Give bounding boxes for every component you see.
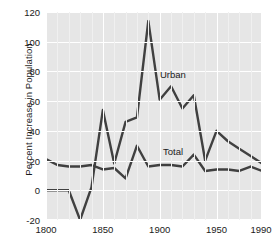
x-tick-label: 1990	[250, 224, 271, 235]
x-tick-label: 1950	[206, 224, 227, 235]
x-axis-tick-labels: 1800 1850 1900 1950 1990	[0, 0, 273, 244]
x-tick-label: 1900	[149, 224, 170, 235]
x-tick-label: 1850	[92, 224, 113, 235]
x-tick-label: 1800	[35, 224, 56, 235]
chart-figure: Percent Increase in Population 120 100 8…	[0, 0, 273, 244]
